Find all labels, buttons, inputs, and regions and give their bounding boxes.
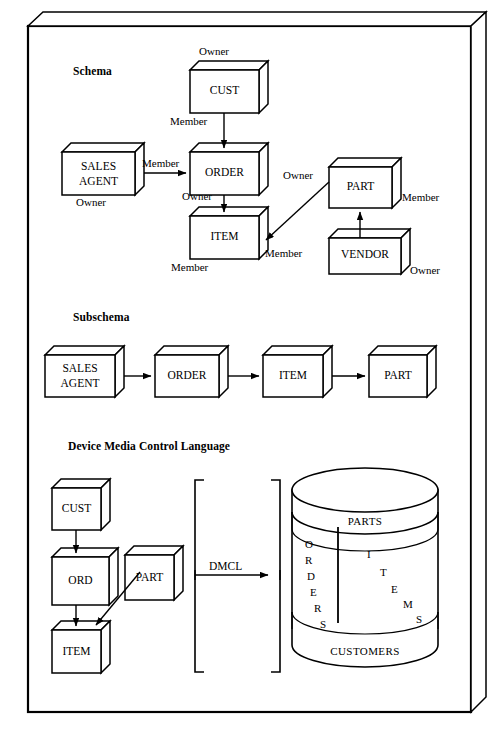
role-label-item-member-left: Member xyxy=(171,262,208,273)
role-label-sales-member: Member xyxy=(142,158,179,169)
role-label-sales-owner: Owner xyxy=(76,197,106,208)
section-heading-subschema: Subschema xyxy=(73,312,130,324)
subschema-box-label-order: ORDER xyxy=(155,370,219,382)
section-heading-dmcl: Device Media Control Language xyxy=(68,441,230,453)
subschema-box-label-part: PART xyxy=(369,370,427,382)
dmcl-box-label-part: PART xyxy=(125,572,174,584)
role-label-cust-member: Member xyxy=(170,116,207,127)
schema-box-label-sales-agent-line1: SALES xyxy=(62,160,135,173)
section-heading-schema: Schema xyxy=(73,66,112,78)
orders-letter: R xyxy=(314,602,321,614)
schema-box-label-vendor: VENDOR xyxy=(329,249,401,261)
role-label-item-member-right: Member xyxy=(265,248,302,259)
orders-letter: E xyxy=(310,586,317,598)
dmcl-arrow-label: DMCL xyxy=(209,561,242,573)
dmcl-box-label-cust: CUST xyxy=(52,503,101,515)
role-label-order-owner: Owner xyxy=(182,191,212,202)
subschema-box-label-sales-agent-line2: AGENT xyxy=(45,377,115,390)
orders-letter: D xyxy=(307,570,315,582)
diagram-canvas: Schema Subschema Device Media Control La… xyxy=(0,0,502,737)
database-label-customers: CUSTOMERS xyxy=(292,646,438,657)
role-label-part-owner: Owner xyxy=(283,170,313,181)
schema-box-label-order: ORDER xyxy=(190,167,259,179)
database-cylinder xyxy=(292,468,438,667)
schema-box-label-cust: CUST xyxy=(190,85,259,97)
subschema-box-label-sales-agent-line1: SALES xyxy=(45,362,115,375)
orders-letter: S xyxy=(320,618,326,630)
orders-letter: O xyxy=(305,538,313,550)
items-letter: M xyxy=(403,598,413,610)
role-label-cust-owner: Owner xyxy=(199,46,229,57)
items-letter: T xyxy=(380,566,387,578)
items-letter: I xyxy=(367,548,371,560)
items-letter: E xyxy=(391,583,398,595)
dmcl-box-label-ord: ORD xyxy=(52,575,109,587)
orders-letter: R xyxy=(305,554,312,566)
schema-box-label-sales-agent-line2: AGENT xyxy=(62,175,135,188)
database-label-parts: PARTS xyxy=(292,516,438,527)
role-label-vendor-owner: Owner xyxy=(410,265,440,276)
role-label-part-member: Member xyxy=(402,192,439,203)
dmcl-box-label-item: ITEM xyxy=(52,646,101,658)
items-letter: S xyxy=(416,613,422,625)
schema-box-label-part: PART xyxy=(329,181,392,193)
subschema-box-label-item: ITEM xyxy=(263,370,323,382)
schema-box-label-item: ITEM xyxy=(190,231,259,243)
